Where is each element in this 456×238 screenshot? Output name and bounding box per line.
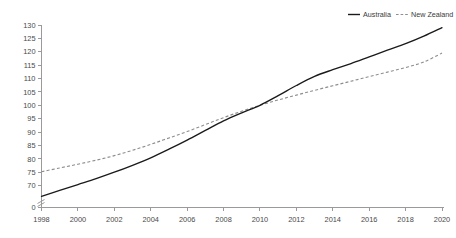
x-tick-label: 2006 <box>179 215 195 224</box>
x-tick-label: 2004 <box>143 215 159 224</box>
y-tick-label: 80 <box>27 155 35 164</box>
x-tick-label: 2014 <box>325 215 341 224</box>
y-tick-label-group: 1301251201151101051009590858075700 <box>23 21 35 213</box>
x-axis: 1998200020022004200620082010201220142016… <box>33 208 450 224</box>
x-tick-label-group: 1998200020022004200620082010201220142016… <box>33 215 450 224</box>
legend: Australia New Zealand <box>348 10 453 19</box>
y-tick-label: 85 <box>27 141 35 150</box>
y-tick-label: 70 <box>27 181 35 190</box>
x-tick-label: 1998 <box>33 215 49 224</box>
x-tick-group <box>42 208 443 212</box>
x-tick-label: 2018 <box>397 215 413 224</box>
y-tick-label: 120 <box>23 47 35 56</box>
x-tick-label: 2002 <box>106 215 122 224</box>
y-tick-label: 100 <box>23 101 35 110</box>
y-axis: 1301251201151101051009590858075700 <box>23 21 44 213</box>
y-tick-label: 110 <box>24 74 36 83</box>
y-tick-label: 105 <box>23 88 35 97</box>
plot-area <box>42 28 443 197</box>
y-tick-group <box>38 25 42 208</box>
y-tick-label: 0 <box>31 203 35 212</box>
legend-label-new-zealand: New Zealand <box>411 10 453 19</box>
legend-label-australia: Australia <box>363 10 391 19</box>
y-tick-label: 115 <box>24 61 36 70</box>
x-tick-label: 2010 <box>252 215 268 224</box>
x-tick-label: 2020 <box>434 215 450 224</box>
y-tick-label: 130 <box>23 21 35 30</box>
y-tick-label: 95 <box>27 114 35 123</box>
x-tick-label: 2016 <box>361 215 377 224</box>
x-tick-label: 2000 <box>70 215 86 224</box>
y-tick-label: 125 <box>23 34 35 43</box>
chart-svg: 1301251201151101051009590858075700 19982… <box>0 0 456 238</box>
y-tick-label: 75 <box>27 168 35 177</box>
x-tick-label: 2008 <box>215 215 231 224</box>
y-tick-label: 90 <box>27 128 35 137</box>
series-line-australia <box>42 28 443 197</box>
x-tick-label: 2012 <box>288 215 304 224</box>
line-chart: 1301251201151101051009590858075700 19982… <box>0 0 456 238</box>
